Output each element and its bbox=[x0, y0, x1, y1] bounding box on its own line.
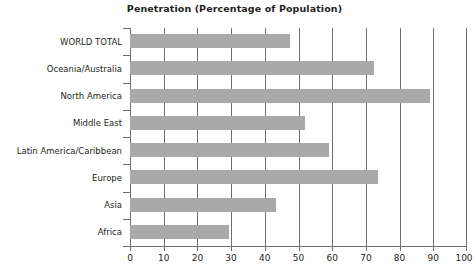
y-axis-label-world-total: WORLD TOTAL bbox=[0, 37, 122, 47]
bar-middle-east bbox=[130, 116, 305, 130]
bar-north-america bbox=[130, 89, 430, 103]
y-axis-label-africa: Africa bbox=[0, 227, 122, 237]
chart-title: Penetration (Percentage of Population) bbox=[0, 3, 469, 14]
x-axis-tick-label: 90 bbox=[421, 253, 445, 263]
y-axis-label-north-america: North America bbox=[0, 91, 122, 101]
y-axis-tick bbox=[123, 137, 130, 138]
bar-world-total bbox=[130, 34, 290, 48]
y-axis-tick bbox=[123, 219, 130, 220]
x-axis-tick-label: 100 bbox=[452, 253, 476, 263]
gridline-80 bbox=[400, 28, 401, 246]
x-axis-tick-label: 0 bbox=[118, 253, 142, 263]
y-axis-tick bbox=[123, 164, 130, 165]
bar-africa bbox=[130, 225, 229, 239]
x-axis-tick-label: 60 bbox=[320, 253, 344, 263]
x-axis-tick-label: 20 bbox=[185, 253, 209, 263]
y-axis-tick bbox=[123, 246, 130, 247]
y-axis-tick bbox=[123, 83, 130, 84]
y-axis-label-latin-america-caribbean: Latin America/Caribbean bbox=[0, 146, 122, 156]
y-axis-label-asia: Asia bbox=[0, 200, 122, 210]
gridline-100 bbox=[466, 28, 467, 246]
x-axis-tick bbox=[197, 246, 198, 251]
x-axis-tick bbox=[466, 246, 467, 251]
y-axis-label-oceania-australia: Oceania/Australia bbox=[0, 64, 122, 74]
y-axis-tick bbox=[123, 110, 130, 111]
y-axis-tick bbox=[123, 55, 130, 56]
x-axis-tick-label: 30 bbox=[219, 253, 243, 263]
bar-europe bbox=[130, 170, 378, 184]
plot-area bbox=[130, 28, 467, 246]
x-axis-tick bbox=[332, 246, 333, 251]
y-axis-tick bbox=[123, 192, 130, 193]
y-axis-label-middle-east: Middle East bbox=[0, 118, 122, 128]
x-axis-tick bbox=[265, 246, 266, 251]
gridline-90 bbox=[433, 28, 434, 246]
x-axis-tick-label: 50 bbox=[287, 253, 311, 263]
x-axis-tick bbox=[130, 246, 131, 251]
y-axis-tick bbox=[123, 28, 130, 29]
x-axis-tick bbox=[400, 246, 401, 251]
x-axis-tick bbox=[366, 246, 367, 251]
x-axis-tick-label: 70 bbox=[354, 253, 378, 263]
x-axis-tick-label: 80 bbox=[388, 253, 412, 263]
x-axis-tick bbox=[433, 246, 434, 251]
x-axis-tick-label: 40 bbox=[253, 253, 277, 263]
bar-latin-america-caribbean bbox=[130, 143, 329, 157]
bar-oceania-australia bbox=[130, 61, 374, 75]
x-axis-tick bbox=[299, 246, 300, 251]
y-axis-label-europe: Europe bbox=[0, 173, 122, 183]
bar-asia bbox=[130, 198, 276, 212]
x-axis-tick bbox=[231, 246, 232, 251]
x-axis-tick-label: 10 bbox=[152, 253, 176, 263]
x-axis-tick bbox=[164, 246, 165, 251]
